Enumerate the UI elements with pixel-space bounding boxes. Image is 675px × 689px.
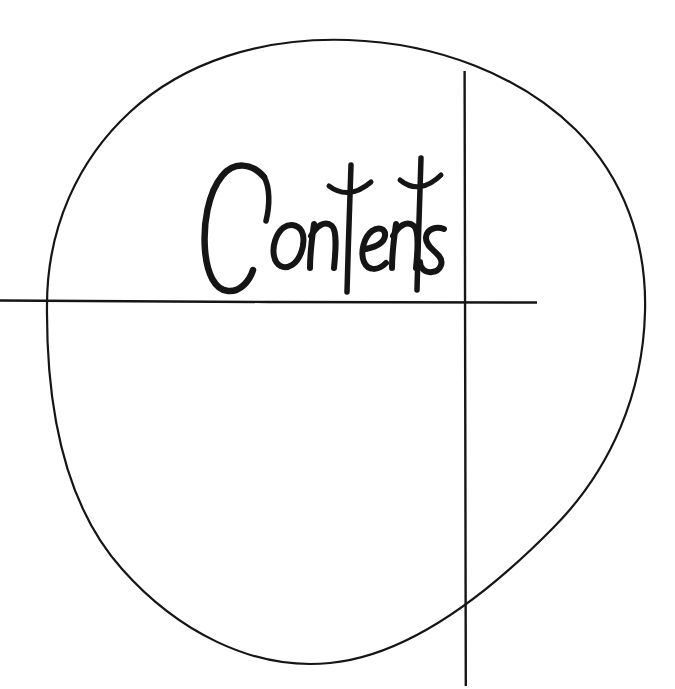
vertical-rule-mark [465,71,466,686]
contents-artboard [0,0,675,689]
contents-divider-page: Contents [0,0,675,689]
page-background [0,0,675,689]
